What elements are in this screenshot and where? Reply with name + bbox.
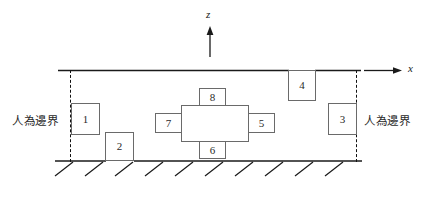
- z-axis-label: z: [206, 8, 210, 20]
- x-axis-label: x: [408, 62, 413, 74]
- box-2[interactable]: 2: [105, 132, 134, 161]
- left-boundary-label: 人為邊界: [12, 112, 58, 128]
- box-8[interactable]: 8: [199, 88, 226, 106]
- z-axis-arrow: [207, 26, 214, 57]
- center-box[interactable]: [181, 105, 249, 142]
- ground-hatching: [55, 162, 343, 176]
- right-boundary-label: 人為邊界: [364, 112, 410, 128]
- box-3[interactable]: 3: [328, 103, 357, 135]
- diagram-canvas: z x 人為邊界 人為邊界 1 2 3 4 8 6 7 5: [0, 0, 434, 197]
- box-4[interactable]: 4: [288, 70, 316, 101]
- box-7[interactable]: 7: [155, 113, 182, 133]
- box-6[interactable]: 6: [199, 141, 226, 159]
- x-axis-arrow: [364, 67, 402, 74]
- box-5[interactable]: 5: [248, 113, 275, 133]
- box-1[interactable]: 1: [71, 103, 100, 135]
